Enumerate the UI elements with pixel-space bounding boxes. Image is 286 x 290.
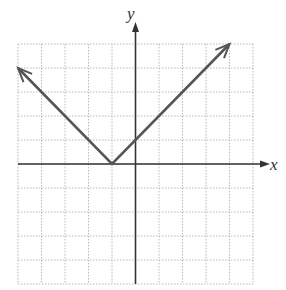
axes [18, 22, 270, 284]
x-axis-label: x [270, 155, 278, 175]
coordinate-graph [0, 0, 286, 290]
y-axis-label: y [127, 4, 135, 24]
function-line [18, 44, 230, 164]
function-graph [18, 44, 230, 164]
x-axis-arrow-icon [260, 161, 270, 168]
